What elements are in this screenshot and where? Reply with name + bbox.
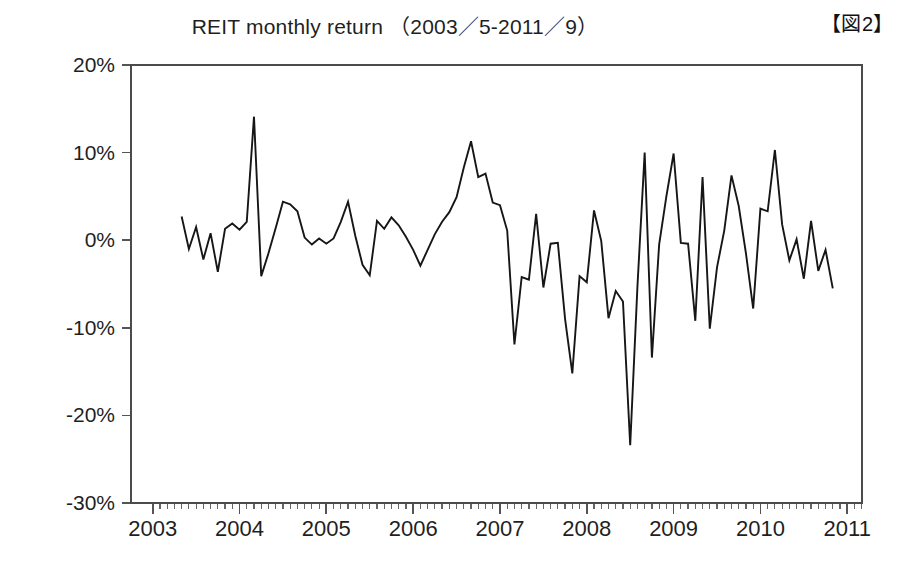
x-tick-label: 2008 <box>562 516 611 541</box>
x-axis-major-ticks <box>153 503 848 514</box>
x-tick-label: 2005 <box>302 516 351 541</box>
y-tick-label: 20% <box>73 53 115 76</box>
x-tick-label: 2009 <box>649 516 698 541</box>
y-tick-label: 10% <box>73 141 115 164</box>
x-tick-label: 2003 <box>128 516 177 541</box>
y-axis-ticks <box>122 65 131 503</box>
chart-plot-area: 20%10%0%-10%-20%-30% 2003200420052006200… <box>0 0 912 566</box>
figure-container: REIT monthly return （2003／5-2011／9） 【図2】… <box>0 0 912 566</box>
y-tick-label: -30% <box>66 491 115 514</box>
y-tick-label: -10% <box>66 316 115 339</box>
x-tick-label: 2007 <box>475 516 524 541</box>
series-line-reit-monthly-return <box>182 117 833 446</box>
y-tick-label: -20% <box>66 403 115 426</box>
x-axis-tick-labels: 200320042005200620072008200920102011 <box>128 516 871 541</box>
axis-frame <box>131 65 862 503</box>
y-tick-label: 0% <box>85 228 115 251</box>
x-tick-label: 2010 <box>736 516 785 541</box>
y-axis-tick-labels: 20%10%0%-10%-20%-30% <box>66 53 115 514</box>
x-tick-label: 2011 <box>824 516 871 541</box>
x-tick-label: 2004 <box>215 516 264 541</box>
x-tick-label: 2006 <box>389 516 438 541</box>
